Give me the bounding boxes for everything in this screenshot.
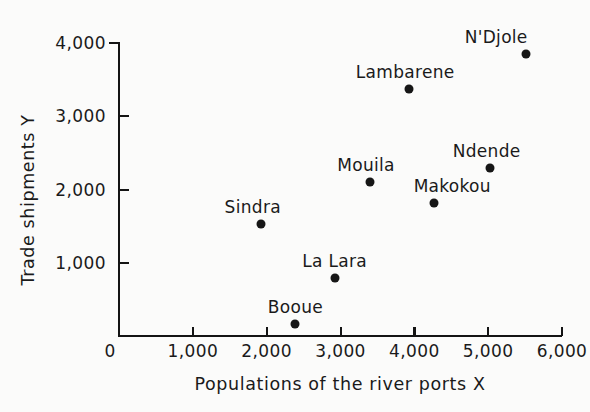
y-tick-mark [109, 42, 118, 44]
x-tick-label: 5,000 [463, 341, 514, 361]
y-tick-mark [120, 189, 129, 191]
x-tick-label: 6,000 [537, 341, 588, 361]
x-tick-label: 0 [104, 341, 115, 361]
x-tick-label: 3,000 [315, 341, 366, 361]
data-point [405, 85, 414, 94]
data-point-label: Mouila [337, 155, 395, 175]
y-tick-mark [120, 115, 129, 117]
scatter-plot-figure: 1,0002,0003,0004,000 01,0002,0003,0004,0… [0, 0, 590, 412]
data-point-label: Sindra [225, 197, 281, 217]
x-tick-mark [266, 327, 268, 336]
x-tick-label: 1,000 [167, 341, 218, 361]
data-point [256, 219, 265, 228]
y-tick-label: 4,000 [22, 33, 106, 53]
data-point-label: N'Djole [465, 27, 528, 47]
data-point-label: La Lara [302, 251, 367, 271]
x-tick-label: 4,000 [389, 341, 440, 361]
data-point-label: Lambarene [356, 62, 455, 82]
y-tick-mark [120, 262, 129, 264]
data-point [522, 49, 531, 58]
x-tick-mark [487, 327, 489, 336]
x-tick-mark [340, 327, 342, 336]
data-point-label: Booue [268, 297, 323, 317]
data-point-label: Ndende [453, 141, 521, 161]
x-tick-mark [192, 327, 194, 336]
x-axis-title: Populations of the river ports X [118, 374, 562, 394]
y-axis-title: Trade shipments Y [18, 80, 38, 320]
data-point-label: Makokou [414, 176, 491, 196]
data-point [485, 164, 494, 173]
data-point [366, 178, 375, 187]
x-tick-mark [561, 327, 563, 336]
data-point [430, 199, 439, 208]
x-tick-label: 2,000 [241, 341, 292, 361]
x-tick-mark [413, 327, 415, 336]
data-point [330, 274, 339, 283]
data-point [291, 320, 300, 329]
